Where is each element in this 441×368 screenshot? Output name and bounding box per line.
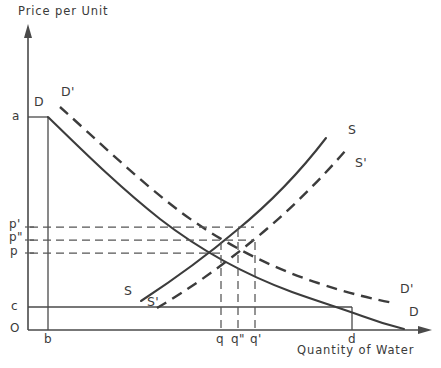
- curve-label-s-start: S: [124, 285, 132, 298]
- x-label-b: b: [44, 333, 52, 345]
- x-label-d: d: [348, 333, 356, 345]
- supply-curve-s-prime: [157, 150, 346, 308]
- y-axis-title: Price per Unit: [18, 6, 108, 18]
- y-label-a: a: [12, 110, 20, 122]
- y-axis-arrowhead: [24, 24, 32, 38]
- x-label-q: q: [216, 333, 224, 345]
- demand-curve-d: [48, 117, 404, 329]
- origin-label: O: [10, 322, 20, 334]
- y-label-p: p: [10, 245, 18, 257]
- y-tick-marks-group: [25, 227, 34, 253]
- x-label-q-prime: q': [250, 333, 262, 345]
- demand-curve-d-prime: [60, 107, 394, 303]
- y-label-c: c: [11, 300, 18, 312]
- curve-label-d-end: D: [409, 306, 419, 319]
- curve-label-s-end: S: [348, 124, 356, 137]
- curve-label-d-prime-end: D': [400, 283, 414, 296]
- axes-group: [24, 24, 432, 334]
- chart-canvas: [0, 0, 441, 368]
- y-label-p-double-prime: p": [9, 231, 23, 243]
- curve-label-s-prime-start: S': [147, 296, 159, 309]
- y-label-p-prime: p': [9, 218, 21, 230]
- reference-lines-group: [28, 117, 352, 330]
- x-label-q-double-prime: q": [231, 333, 245, 345]
- curve-label-s-prime-end: S': [355, 157, 367, 170]
- supply-demand-chart: Price per Unit Quantity of Water O a p' …: [0, 0, 441, 368]
- curve-label-d-top: D: [34, 96, 44, 109]
- x-axis-title: Quantity of Water: [297, 345, 414, 357]
- curve-label-d-prime-top: D': [61, 86, 75, 99]
- x-axis-arrowhead: [418, 326, 432, 334]
